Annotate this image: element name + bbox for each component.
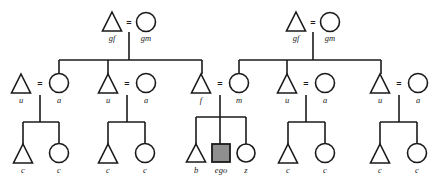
female-circle-icon[interactable] bbox=[50, 74, 69, 93]
person-c6[interactable]: c bbox=[316, 144, 335, 176]
male-triangle-icon[interactable] bbox=[287, 12, 306, 31]
female-circle-icon[interactable] bbox=[321, 13, 340, 32]
person-label: c bbox=[415, 165, 419, 175]
person-gm-right[interactable]: gm bbox=[321, 13, 340, 44]
person-a2[interactable]: a bbox=[137, 74, 156, 106]
male-triangle-icon[interactable] bbox=[14, 144, 33, 163]
person-father[interactable]: f bbox=[192, 74, 211, 105]
person-c4[interactable]: c bbox=[136, 144, 155, 176]
marriage-equals-gp-right: = bbox=[310, 18, 315, 28]
female-circle-icon[interactable] bbox=[316, 74, 335, 93]
male-triangle-icon[interactable] bbox=[371, 74, 390, 93]
female-circle-icon[interactable] bbox=[409, 74, 428, 93]
person-label: f bbox=[200, 95, 204, 105]
person-label: c bbox=[106, 165, 110, 175]
marriage-equals-gp-left: = bbox=[126, 18, 131, 28]
ego-square-icon[interactable] bbox=[212, 144, 230, 162]
person-label: u bbox=[19, 95, 23, 105]
marriage-equals-u1-a1: = bbox=[37, 79, 42, 89]
person-label: gm bbox=[141, 33, 151, 43]
person-c5[interactable]: c bbox=[279, 144, 298, 175]
marriage-equals-u4-a4: = bbox=[396, 79, 401, 89]
person-a1[interactable]: a bbox=[50, 74, 69, 106]
person-gm-left[interactable]: gm bbox=[137, 13, 156, 44]
person-c2[interactable]: c bbox=[50, 144, 69, 176]
male-triangle-icon[interactable] bbox=[103, 12, 122, 31]
person-label: u bbox=[106, 95, 110, 105]
person-label: c bbox=[378, 165, 382, 175]
person-brother[interactable]: b bbox=[187, 144, 206, 175]
marriage-signs: = = = = = = = bbox=[37, 18, 401, 89]
person-label: c bbox=[143, 165, 147, 175]
person-label: c bbox=[323, 165, 327, 175]
marriage-equals-f-m: = bbox=[217, 79, 222, 89]
male-triangle-icon[interactable] bbox=[279, 144, 298, 163]
person-u2[interactable]: u bbox=[99, 74, 118, 105]
female-circle-icon[interactable] bbox=[136, 144, 155, 163]
female-circle-icon[interactable] bbox=[137, 13, 156, 32]
person-ego[interactable]: ego bbox=[212, 144, 230, 175]
person-a3[interactable]: a bbox=[316, 74, 335, 106]
male-triangle-icon[interactable] bbox=[99, 74, 118, 93]
generation-grandparents: gf gm gf gm bbox=[103, 12, 340, 43]
person-label: b bbox=[194, 165, 198, 175]
male-triangle-icon[interactable] bbox=[187, 144, 206, 162]
person-u4[interactable]: u bbox=[371, 74, 390, 105]
person-label: gf bbox=[109, 33, 117, 43]
kinship-diagram: = = = = = = = gf gm gf gm u bbox=[0, 0, 439, 182]
male-triangle-icon[interactable] bbox=[371, 144, 390, 163]
male-triangle-icon[interactable] bbox=[192, 74, 211, 93]
person-label: z bbox=[243, 165, 248, 175]
person-c1[interactable]: c bbox=[14, 144, 33, 175]
person-label: a bbox=[144, 95, 148, 105]
person-label: a bbox=[57, 95, 61, 105]
person-label: c bbox=[21, 165, 25, 175]
person-label: a bbox=[416, 95, 420, 105]
person-label: gm bbox=[325, 33, 335, 43]
person-gf-left[interactable]: gf bbox=[103, 12, 122, 43]
person-label: u bbox=[378, 95, 382, 105]
person-label: c bbox=[286, 165, 290, 175]
female-circle-icon[interactable] bbox=[50, 144, 69, 163]
person-mother[interactable]: m bbox=[230, 74, 249, 106]
person-label: m bbox=[236, 95, 242, 105]
person-label: c bbox=[57, 165, 61, 175]
person-a4[interactable]: a bbox=[409, 74, 428, 106]
person-label: gf bbox=[293, 33, 301, 43]
female-circle-icon[interactable] bbox=[316, 144, 335, 163]
person-u1[interactable]: u bbox=[12, 74, 31, 105]
person-sister[interactable]: z bbox=[237, 144, 255, 175]
person-c3[interactable]: c bbox=[99, 144, 118, 175]
person-label: ego bbox=[215, 165, 227, 175]
marriage-equals-u2-a2: = bbox=[124, 79, 129, 89]
female-circle-icon[interactable] bbox=[230, 74, 249, 93]
male-triangle-icon[interactable] bbox=[12, 74, 31, 93]
person-gf-right[interactable]: gf bbox=[287, 12, 306, 43]
person-c7[interactable]: c bbox=[371, 144, 390, 175]
male-triangle-icon[interactable] bbox=[99, 144, 118, 163]
person-label: u bbox=[285, 95, 289, 105]
person-u3[interactable]: u bbox=[278, 74, 297, 105]
marriage-equals-u3-a3: = bbox=[303, 79, 308, 89]
female-circle-icon[interactable] bbox=[137, 74, 156, 93]
generation-children: c c c c b ego z c bbox=[14, 144, 427, 176]
female-circle-icon[interactable] bbox=[237, 144, 255, 162]
male-triangle-icon[interactable] bbox=[278, 74, 297, 93]
person-label: a bbox=[323, 95, 327, 105]
person-c8[interactable]: c bbox=[408, 144, 427, 176]
female-circle-icon[interactable] bbox=[408, 144, 427, 163]
